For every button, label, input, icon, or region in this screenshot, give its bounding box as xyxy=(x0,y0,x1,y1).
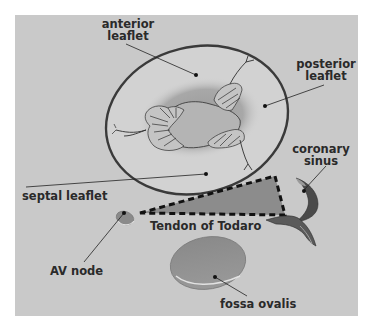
label-coronary-sinus: coronary sinus xyxy=(290,143,352,167)
label-anterior-leaflet-line2: leaflet xyxy=(98,30,158,42)
label-coronary-sinus-line2: sinus xyxy=(290,155,352,167)
leader-av-node xyxy=(84,213,124,262)
fossa-ovalis xyxy=(166,231,250,295)
label-posterior-leaflet-line2: leaflet xyxy=(296,70,356,82)
todaro-tendon-tail xyxy=(266,216,316,246)
label-av-node: AV node xyxy=(50,265,103,277)
coronary-sinus-crescent xyxy=(296,178,318,222)
pointer-dot-coronary-sinus xyxy=(302,189,306,193)
pointer-dot-posterior-leaflet xyxy=(263,104,267,108)
label-fossa-ovalis: fossa ovalis xyxy=(220,298,296,310)
label-anterior-leaflet: anterior leaflet xyxy=(98,18,158,42)
pointer-dot-fossa-ovalis xyxy=(213,275,217,279)
label-tendon-of-todaro: Tendon of Todaro xyxy=(150,220,261,232)
pointer-dot-septal-leaflet xyxy=(204,172,208,176)
label-posterior-leaflet: posterior leaflet xyxy=(296,58,356,82)
pointer-dot-av-node xyxy=(122,211,126,215)
label-septal-leaflet: septal leaflet xyxy=(22,190,107,202)
pointer-dot-anterior-leaflet xyxy=(194,73,198,77)
leader-coronary-sinus xyxy=(304,166,326,190)
